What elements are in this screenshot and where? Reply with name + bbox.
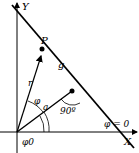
radius-label: r — [28, 78, 33, 88]
y-axis-label: Y — [22, 1, 30, 12]
foot-point — [70, 89, 75, 94]
point-p — [40, 47, 45, 52]
angle-arc-phi0-outer — [44, 112, 49, 132]
x-axis-label: X — [123, 136, 132, 147]
right-angle-arc — [61, 99, 80, 105]
polar-line-diagram: Y X P g r a φ φ0 90º φ = 0 — [0, 0, 139, 153]
phi-zero-label: φ = 0 — [104, 119, 130, 129]
radius-vector — [17, 56, 41, 132]
point-p-label: P — [40, 35, 48, 46]
right-angle-label: 90º — [60, 106, 76, 116]
line-g-label: g — [58, 59, 64, 70]
angle-phi0-label: φ0 — [22, 137, 34, 147]
angle-arc-phi0 — [40, 116, 44, 132]
distance-a-label: a — [43, 102, 48, 112]
angle-phi-label: φ — [34, 96, 41, 106]
